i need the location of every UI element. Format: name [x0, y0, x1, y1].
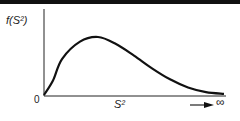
origin-label: 0: [34, 94, 40, 105]
distribution-curve: [44, 37, 224, 95]
y-axis-label: f(S²): [6, 14, 27, 26]
x-axis-label: S²: [114, 98, 125, 110]
infinity-label: ∞: [216, 95, 225, 109]
arrow-head-icon: [204, 102, 214, 108]
